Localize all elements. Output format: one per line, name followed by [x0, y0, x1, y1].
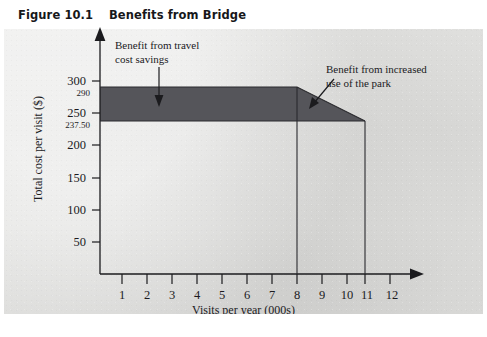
x-axis-ticks — [122, 274, 390, 284]
page-bottom-margin — [0, 314, 487, 337]
x-tick-label-6: 6 — [244, 288, 250, 303]
x-axis-arrowhead — [410, 269, 424, 280]
annotation-travel-cost-savings-line2: cost savings — [115, 53, 199, 67]
annotation-travel-cost-savings-line1: Benefit from travel — [115, 39, 199, 53]
benefit-shaded-region — [100, 87, 365, 121]
x-tick-label-10: 10 — [341, 288, 354, 303]
annotation-travel-cost-savings: Benefit from travel cost savings — [115, 39, 199, 66]
y-axis-arrowhead — [95, 27, 106, 41]
x-tick-label-1: 1 — [119, 288, 125, 303]
annotation-increased-park-use-line1: Benefit from increased — [326, 63, 427, 77]
x-tick-label-8: 8 — [294, 288, 300, 303]
y-axis-title: Total cost per visit ($) — [31, 96, 45, 202]
x-tick-label-2: 2 — [144, 288, 150, 303]
x-tick-label-5: 5 — [219, 288, 225, 303]
x-tick-label-4: 4 — [194, 288, 200, 303]
annotation-increased-park-use: Benefit from increased use of the park — [326, 63, 427, 90]
chart-plot-area: 300 290 250 237.50 200 150 100 50 1 2 3 … — [4, 3, 483, 314]
x-tick-label-7: 7 — [269, 288, 275, 303]
figure-page: Figure 10.1 Benefits from Bridge — [0, 0, 487, 337]
x-tick-label-12: 12 — [386, 288, 399, 303]
x-tick-label-3: 3 — [169, 288, 175, 303]
y-axis-ticks — [92, 81, 100, 242]
scanned-page-background: Figure 10.1 Benefits from Bridge — [4, 3, 483, 314]
y-tick-label-50: 50 — [34, 235, 86, 250]
x-tick-label-9: 9 — [319, 288, 325, 303]
y-axis-title-wrapper: Total cost per visit ($) — [28, 69, 46, 229]
annotation-increased-park-use-line2: use of the park — [326, 77, 427, 91]
chart-svg — [4, 3, 483, 314]
x-tick-label-11: 11 — [361, 288, 373, 303]
